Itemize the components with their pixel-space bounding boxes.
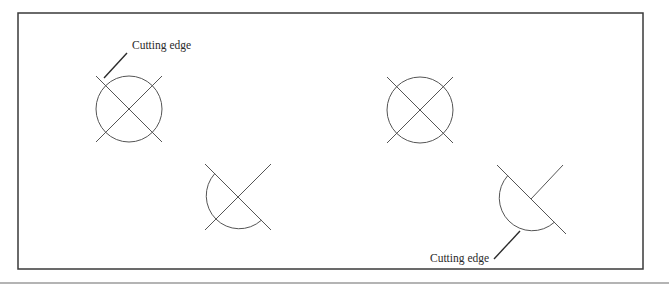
diagram-frame [18,13,643,269]
half-circle-bottom-left [205,164,271,230]
cutting-edge-label-bottom-right: Cutting edge [430,253,489,265]
leader-line-bottom-right [494,231,520,259]
full-circle-top-left [96,76,162,142]
diagram-canvas [0,0,669,291]
half-circle-bottom-right [497,165,566,234]
leader-line-top-left [104,53,127,78]
cutting-edge-diagram: Cutting edge Cutting edge [0,0,669,291]
cutting-edge-label-top-left: Cutting edge [132,40,191,52]
full-circle-top-right [387,77,453,143]
